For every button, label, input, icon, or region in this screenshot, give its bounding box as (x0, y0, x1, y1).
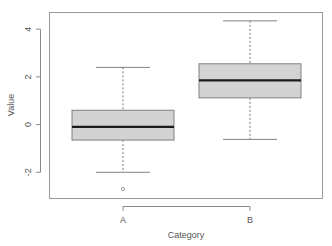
box-B (199, 21, 301, 140)
y-tick-label: -2 (23, 168, 33, 176)
boxes (72, 21, 301, 191)
y-axis: -2024 (23, 27, 41, 177)
iqr-box (72, 110, 174, 140)
y-tick-label: 4 (23, 27, 33, 32)
box-A (72, 67, 174, 190)
plot-frame (50, 13, 323, 199)
boxplot-chart: -2024 AB Value Category (0, 0, 332, 246)
x-tick-label: A (120, 215, 126, 225)
x-axis-title: Category (168, 230, 205, 240)
y-tick-label: 0 (23, 122, 33, 127)
outlier-point (121, 187, 124, 190)
y-axis-title: Value (6, 94, 16, 116)
x-axis: AB (120, 207, 253, 226)
x-tick-label: B (247, 215, 253, 225)
y-tick-label: 2 (23, 74, 33, 79)
